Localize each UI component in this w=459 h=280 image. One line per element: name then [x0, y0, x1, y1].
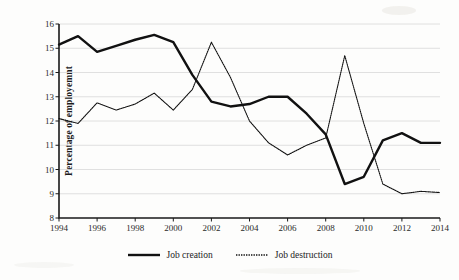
x-tick-label: 2004: [241, 223, 259, 233]
paper-blotch: [240, 268, 360, 274]
series-line-job-creation: [59, 35, 440, 184]
y-tick-label: 12: [45, 116, 54, 126]
legend-label: Job creation: [167, 250, 213, 260]
y-tick-label: 10: [45, 165, 54, 175]
legend-item-job-destruction[interactable]: Job destruction: [235, 250, 333, 260]
x-tick-label: 2012: [393, 223, 411, 233]
legend-swatch-dotted-line-icon: [235, 250, 269, 260]
data-series-layer: [59, 24, 440, 218]
y-tick-label: 11: [45, 140, 54, 150]
legend-label: Job destruction: [275, 250, 333, 260]
y-tick-label: 9: [50, 189, 55, 199]
x-tick-label: 2002: [202, 223, 220, 233]
y-tick-label: 8: [50, 213, 55, 223]
y-tick-label: 14: [45, 68, 54, 78]
y-tick-label: 16: [45, 19, 54, 29]
legend-swatch-solid-line-icon: [127, 250, 161, 260]
y-tick-label: 15: [45, 43, 54, 53]
x-tick-label: 2000: [164, 223, 182, 233]
paper-blotch: [382, 6, 416, 15]
series-line-job-destruction: [59, 42, 440, 194]
x-tick-label: 2006: [279, 223, 297, 233]
plot-area: Percentage of employemnt 891011121314151…: [59, 24, 440, 218]
legend-item-job-creation[interactable]: Job creation: [127, 250, 213, 260]
x-tick-label: 1996: [88, 223, 106, 233]
x-tick-label: 1994: [50, 223, 68, 233]
x-tick-label: 1998: [126, 223, 144, 233]
x-tick-label: 2008: [317, 223, 335, 233]
chart-figure: Percentage of employemnt 891011121314151…: [0, 0, 459, 280]
chart-legend: Job creation Job destruction: [0, 250, 459, 260]
x-tick-label: 2010: [355, 223, 373, 233]
y-tick-label: 13: [45, 92, 54, 102]
paper-blotch: [14, 262, 74, 268]
x-tick-label: 2014: [431, 223, 449, 233]
